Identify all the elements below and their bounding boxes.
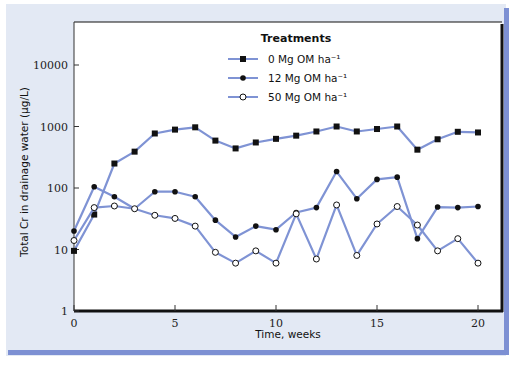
data-point: [313, 128, 319, 134]
data-point: [313, 256, 319, 262]
data-point: [213, 217, 219, 223]
data-point: [374, 177, 380, 183]
data-point: [253, 248, 259, 254]
x-tick-label: 5: [172, 317, 179, 330]
data-point: [192, 124, 198, 130]
data-point: [71, 238, 77, 244]
y-tick-label: 10000: [33, 59, 68, 72]
data-point: [132, 206, 138, 212]
data-point: [240, 56, 246, 62]
data-point: [435, 248, 441, 254]
data-point: [394, 174, 400, 180]
data-point: [152, 189, 158, 195]
data-point: [394, 124, 400, 130]
x-tick-label: 15: [370, 317, 384, 330]
data-point: [152, 212, 158, 218]
data-point: [233, 260, 239, 266]
data-point: [192, 223, 198, 229]
data-point: [172, 215, 178, 221]
data-point: [455, 205, 461, 211]
legend-label: 12 Mg OM ha⁻¹: [268, 72, 347, 84]
data-point: [91, 184, 97, 190]
legend-title: Treatments: [261, 32, 332, 45]
data-point: [374, 126, 380, 132]
y-tick-label: 1: [61, 305, 68, 318]
legend-label: 50 Mg OM ha⁻¹: [268, 91, 347, 103]
data-point: [394, 204, 400, 210]
data-point: [334, 169, 340, 175]
data-point: [111, 161, 117, 167]
x-tick-label: 0: [71, 317, 78, 330]
data-point: [273, 136, 279, 142]
data-point: [273, 227, 279, 233]
y-axis-title: Total Cr in drainage water (μg/L): [18, 87, 30, 258]
data-point: [172, 127, 178, 133]
data-point: [293, 133, 299, 139]
data-point: [455, 236, 461, 242]
y-tick-label: 1000: [40, 121, 68, 134]
data-point: [212, 249, 218, 255]
data-point: [475, 260, 481, 266]
y-tick-label: 10: [54, 244, 68, 257]
data-point: [334, 124, 340, 130]
x-axis-title: Time, weeks: [254, 328, 320, 340]
data-point: [314, 205, 320, 211]
data-point: [354, 252, 360, 258]
data-point: [240, 75, 246, 81]
data-point: [71, 228, 77, 234]
data-point: [414, 147, 420, 153]
chart-svg: 110100100010000 05101520 Time, weeks Tot…: [0, 0, 516, 367]
data-point: [354, 196, 360, 202]
y-tick-label: 100: [47, 182, 68, 195]
plot-area: [74, 22, 502, 311]
data-point: [233, 145, 239, 151]
data-point: [112, 194, 118, 200]
data-point: [253, 223, 259, 229]
data-point: [152, 130, 158, 136]
y-axis-ticks: 110100100010000: [33, 59, 79, 318]
data-point: [414, 222, 420, 228]
data-point: [455, 129, 461, 135]
data-point: [334, 202, 340, 208]
data-point: [132, 149, 138, 155]
data-point: [475, 204, 481, 210]
data-point: [111, 203, 117, 209]
data-point: [240, 94, 246, 100]
data-point: [293, 211, 299, 217]
data-point: [253, 139, 259, 145]
data-point: [374, 221, 380, 227]
data-point: [172, 189, 178, 195]
data-point: [71, 248, 77, 254]
x-tick-label: 20: [471, 317, 485, 330]
data-point: [233, 234, 239, 240]
data-point: [212, 138, 218, 144]
data-point: [273, 260, 279, 266]
data-point: [435, 204, 441, 210]
data-point: [415, 236, 421, 242]
legend-label: 0 Mg OM ha⁻¹: [268, 53, 341, 65]
data-point: [435, 136, 441, 142]
data-point: [91, 205, 97, 211]
data-point: [475, 129, 481, 135]
data-point: [354, 128, 360, 134]
data-point: [192, 194, 198, 200]
